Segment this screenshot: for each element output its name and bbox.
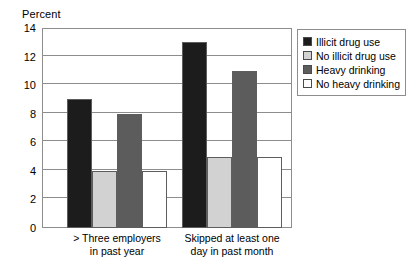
y-tick-label: 8	[30, 108, 36, 120]
y-axis-title: Percent	[22, 8, 61, 20]
legend-label: No heavy drinking	[316, 78, 400, 90]
bar	[67, 99, 92, 228]
bar	[182, 42, 207, 228]
y-tick-label: 6	[30, 136, 36, 148]
bar	[257, 157, 282, 228]
bars-layer	[42, 28, 292, 228]
legend-label: Heavy drinking	[316, 64, 385, 76]
y-tick-label: 2	[30, 193, 36, 205]
bar	[207, 157, 232, 228]
legend-swatch-icon	[303, 51, 312, 60]
legend-swatch-icon	[303, 65, 312, 74]
legend-swatch-icon	[303, 79, 312, 88]
legend-label: No illicit drug use	[316, 50, 396, 62]
legend-swatch-icon	[303, 37, 312, 46]
legend-label: Illicit drug use	[316, 36, 380, 48]
bar	[92, 171, 117, 228]
chart-page: Percent 02468101214 > Three employersin …	[0, 0, 418, 274]
x-group-label: > Three employersin past year	[73, 232, 161, 258]
y-tick-label: 10	[24, 79, 36, 91]
legend-item: No heavy drinking	[303, 77, 400, 90]
bar	[117, 114, 142, 228]
bar	[142, 171, 167, 228]
legend-item: Illicit drug use	[303, 35, 400, 48]
x-group-label-line: day in past month	[184, 245, 279, 258]
legend-item: Heavy drinking	[303, 63, 400, 76]
y-tick-label: 14	[24, 22, 36, 34]
legend-item: No illicit drug use	[303, 49, 400, 62]
x-axis-group-labels: > Three employersin past yearSkipped at …	[42, 232, 292, 266]
legend: Illicit drug useNo illicit drug useHeavy…	[297, 29, 406, 96]
x-group-label-line: Skipped at least one	[184, 232, 279, 245]
y-tick-label: 12	[24, 51, 36, 63]
x-group-label-line: > Three employers	[73, 232, 161, 245]
bar	[232, 71, 257, 228]
y-tick-label: 4	[30, 165, 36, 177]
x-group-label: Skipped at least oneday in past month	[184, 232, 279, 258]
x-group-label-line: in past year	[73, 245, 161, 258]
y-tick-label: 0	[30, 222, 36, 234]
